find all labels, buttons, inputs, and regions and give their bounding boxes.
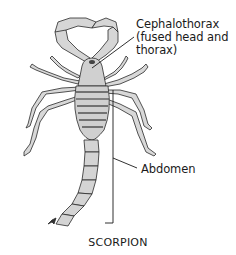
- pedipalp-right: [92, 18, 118, 62]
- tail: [48, 140, 99, 226]
- scorpion-diagram: Cephalothorax (fused head and thorax) Ab…: [0, 0, 236, 255]
- abdomen-leader-line: [113, 158, 137, 168]
- abdomen-label: Abdomen: [141, 163, 195, 176]
- pedipalp-left: [55, 18, 96, 62]
- diagram-title: SCORPION: [0, 236, 236, 249]
- cephalothorax-label: Cephalothorax (fused head and thorax): [136, 18, 234, 57]
- legs-right: [104, 56, 156, 156]
- legs-left: [24, 56, 82, 156]
- cephalothorax-label-line3: thorax): [136, 44, 234, 57]
